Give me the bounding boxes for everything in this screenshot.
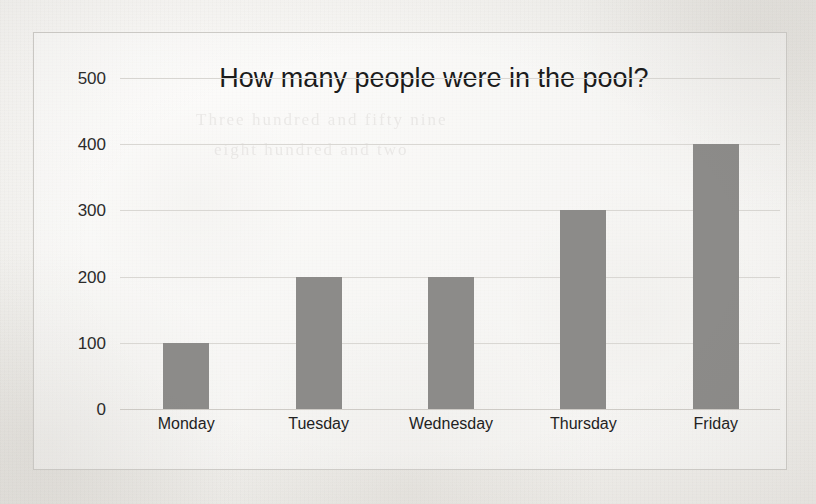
y-tick-label-100: 100	[34, 334, 106, 351]
y-tick-label-300: 300	[34, 202, 106, 219]
x-tick-label-friday: Friday	[694, 416, 738, 432]
bar-wednesday	[428, 277, 474, 409]
y-tick-label-0: 0	[34, 401, 106, 418]
bar-monday	[163, 343, 209, 409]
scanned-page: Three hundred and fifty nine eight hundr…	[0, 0, 816, 504]
gridline-400	[120, 144, 780, 145]
y-tick-label-200: 200	[34, 268, 106, 285]
x-tick-label-wednesday: Wednesday	[409, 416, 493, 432]
x-tick-label-tuesday: Tuesday	[288, 416, 349, 432]
bar-friday	[693, 144, 739, 409]
y-tick-label-400: 400	[34, 136, 106, 153]
chart-container: How many people were in the pool? 500400…	[33, 32, 787, 470]
gridline-300	[120, 210, 780, 211]
plot-area: 5004003002001000 MondayTuesdayWednesdayT…	[34, 33, 786, 469]
x-tick-label-monday: Monday	[158, 416, 215, 432]
gridline-0	[120, 409, 780, 410]
gridline-500	[120, 78, 780, 79]
bar-tuesday	[296, 277, 342, 409]
bar-thursday	[560, 210, 606, 409]
x-tick-label-thursday: Thursday	[550, 416, 617, 432]
y-tick-label-500: 500	[34, 70, 106, 87]
